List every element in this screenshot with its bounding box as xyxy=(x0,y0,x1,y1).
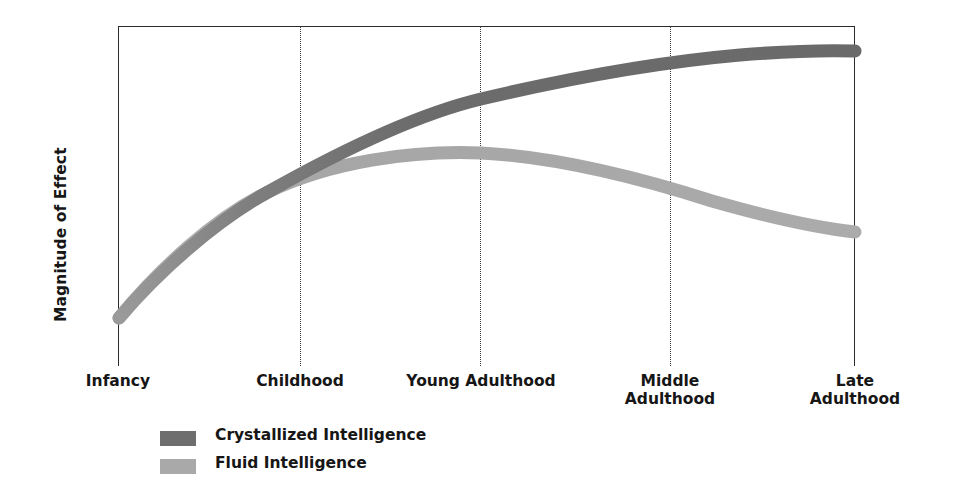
gridline-middle-adulthood xyxy=(670,26,671,366)
plot-right-border xyxy=(854,26,855,366)
legend-label-fluid: Fluid Intelligence xyxy=(215,454,367,472)
plot-top-border xyxy=(118,26,855,27)
legend-swatch-crystallized xyxy=(160,431,196,446)
chart-figure: Magnitude of Effect xyxy=(0,0,956,500)
x-axis-label-late-adulthood: Late Adulthood xyxy=(789,372,921,409)
legend-item-crystallized: Crystallized Intelligence xyxy=(160,426,580,454)
gridline-childhood xyxy=(300,26,301,366)
x-axis-label-infancy: Infancy xyxy=(52,372,184,390)
legend-label-crystallized: Crystallized Intelligence xyxy=(215,426,426,444)
y-axis-line xyxy=(118,26,119,366)
x-axis-label-childhood: Childhood xyxy=(234,372,366,390)
x-axis-label-young-adulthood: Young Adulthood xyxy=(396,372,566,390)
gridline-young-adulthood xyxy=(480,26,481,366)
y-axis-title: Magnitude of Effect xyxy=(52,62,70,322)
legend-swatch-fluid xyxy=(160,459,196,474)
legend-item-fluid: Fluid Intelligence xyxy=(160,454,580,482)
x-axis-label-middle-adulthood: Middle Adulthood xyxy=(604,372,736,409)
legend: Crystallized Intelligence Fluid Intellig… xyxy=(160,426,580,482)
plot-area xyxy=(118,26,855,366)
